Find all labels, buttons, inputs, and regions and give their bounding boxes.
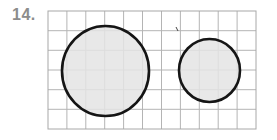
large-circle (62, 26, 149, 116)
grid-figure (0, 0, 277, 140)
small-circle (179, 39, 240, 102)
